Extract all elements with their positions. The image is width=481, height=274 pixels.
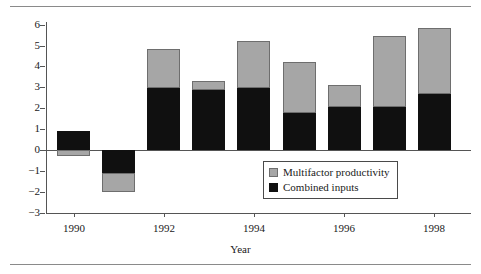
y-tick-label: 5 <box>18 40 40 51</box>
y-tick-label: 6 <box>18 19 40 30</box>
y-tick-mark <box>40 171 45 172</box>
bar-segment-multifactor-productivity-1997 <box>373 36 406 107</box>
y-tick-label: −3 <box>18 207 40 218</box>
bar-segment-combined-inputs-1994 <box>237 88 270 150</box>
x-tick-label: 1990 <box>44 222 104 234</box>
x-tick-mark <box>434 213 435 217</box>
y-tick-label: −2 <box>18 186 40 197</box>
bar-segment-multifactor-productivity-1994 <box>237 41 270 88</box>
legend-swatch-icon-combined-inputs <box>269 183 278 192</box>
bar-1991 <box>102 0 135 274</box>
bar-segment-combined-inputs-1991 <box>102 150 135 173</box>
legend-label-multifactor-productivity: Multifactor productivity <box>283 166 390 179</box>
y-tick-label-wrap: 2 <box>0 102 40 113</box>
y-tick-label: 4 <box>18 60 40 71</box>
x-axis-title: Year <box>0 243 481 255</box>
y-axis-line <box>46 22 47 214</box>
legend-swatch-icon-multifactor-productivity <box>269 168 278 177</box>
bar-1993 <box>192 0 225 274</box>
x-tick-label: 1996 <box>314 222 374 234</box>
x-tick-mark <box>254 213 255 217</box>
y-tick-label-wrap: 6 <box>0 19 40 30</box>
y-tick-mark <box>40 66 45 67</box>
y-tick-label: 0 <box>18 144 40 155</box>
x-tick-mark <box>164 213 165 217</box>
bar-segment-multifactor-productivity-1998 <box>418 28 451 94</box>
y-tick-label: 2 <box>18 102 40 113</box>
y-tick-mark <box>40 129 45 130</box>
y-tick-mark <box>40 25 45 26</box>
bar-segment-multifactor-productivity-1990 <box>57 150 90 156</box>
y-tick-label-wrap: 5 <box>0 40 40 51</box>
bar-segment-combined-inputs-1997 <box>373 107 406 150</box>
chart-figure: 6543210−1−2−3 19901992199419961998 Year … <box>0 0 481 274</box>
y-tick-mark <box>40 108 45 109</box>
bar-segment-combined-inputs-1993 <box>192 90 225 150</box>
y-tick-label: 3 <box>18 81 40 92</box>
y-tick-mark <box>40 213 45 214</box>
legend-item-combined-inputs: Combined inputs <box>269 180 390 195</box>
y-tick-label-wrap: −2 <box>0 186 40 197</box>
x-tick-label: 1998 <box>404 222 464 234</box>
bar-segment-combined-inputs-1998 <box>418 94 451 150</box>
bar-segment-combined-inputs-1995 <box>283 113 316 150</box>
bar-segment-multifactor-productivity-1992 <box>147 49 180 88</box>
y-tick-label: −1 <box>18 165 40 176</box>
y-tick-label-wrap: 0 <box>0 144 40 155</box>
bar-segment-combined-inputs-1992 <box>147 87 180 150</box>
x-tick-label: 1992 <box>134 222 194 234</box>
x-tick-mark <box>74 213 75 217</box>
bar-1995 <box>283 0 316 274</box>
chart-legend: Multifactor productivity Combined inputs <box>263 161 398 199</box>
bar-segment-multifactor-productivity-1995 <box>283 62 316 113</box>
y-tick-mark <box>40 192 45 193</box>
y-tick-mark <box>40 46 45 47</box>
bar-segment-multifactor-productivity-1993 <box>192 81 225 90</box>
y-tick-label-wrap: −1 <box>0 165 40 176</box>
bar-segment-multifactor-productivity-1996 <box>328 85 361 107</box>
bar-segment-combined-inputs-1996 <box>328 107 361 150</box>
legend-label-combined-inputs: Combined inputs <box>283 181 358 194</box>
legend-item-multifactor-productivity: Multifactor productivity <box>269 165 390 180</box>
x-tick-mark <box>344 213 345 217</box>
y-tick-label: 1 <box>18 123 40 134</box>
y-tick-mark <box>40 87 45 88</box>
bar-segment-combined-inputs-1990 <box>57 131 90 150</box>
y-tick-label-wrap: −3 <box>0 207 40 218</box>
y-tick-label-wrap: 1 <box>0 123 40 134</box>
y-tick-label-wrap: 4 <box>0 60 40 71</box>
x-tick-label: 1994 <box>224 222 284 234</box>
bar-segment-multifactor-productivity-1991 <box>102 173 135 192</box>
y-tick-label-wrap: 3 <box>0 81 40 92</box>
y-tick-mark <box>40 150 45 151</box>
bar-1997 <box>373 0 406 274</box>
